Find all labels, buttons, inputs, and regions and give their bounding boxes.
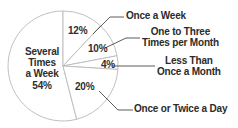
slice-value-less-than-once-a-month: 4% (101, 60, 115, 71)
slice-label-once-a-week: Once a Week (126, 11, 186, 22)
slice-label-less-than-once-a-month: Less Than Once a Month (157, 56, 221, 78)
label-line-2: Once a Month (157, 67, 221, 78)
slice-value-once-or-twice-a-day: 20% (75, 82, 94, 93)
slice-label-once-or-twice-a-day: Once or Twice a Day (134, 104, 227, 115)
center-label-line-3: a Week (14, 68, 70, 79)
pie-chart: 12% 10% 4% 20% Several Times a Week 54% … (0, 0, 238, 128)
center-label-line-2: Times (14, 57, 70, 68)
slice-value-once-a-week: 12% (68, 26, 87, 37)
label-line-2: Times per Month (142, 38, 219, 49)
center-label-line-1: Several (14, 46, 70, 57)
slice-label-several-times-a-week: Several Times a Week 54% (14, 46, 70, 91)
center-label-line-4: 54% (14, 80, 70, 91)
slice-label-one-to-three-times-per-month: One to Three Times per Month (142, 27, 219, 49)
slice-value-one-to-three-times-per-month: 10% (88, 44, 107, 55)
